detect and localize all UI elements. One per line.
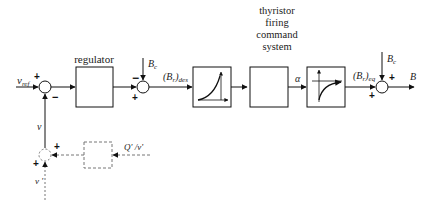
svc-control-block-diagram: vref + − v regulator Bc − + (Br)des — [0, 0, 431, 207]
sum3-plus-top: + — [389, 72, 395, 83]
feedback-path: v — [37, 94, 45, 148]
b-eq-label: (Br)eq — [353, 70, 376, 83]
bc1-label: Bc — [148, 58, 158, 71]
output-b-label: B — [410, 71, 416, 82]
q-over-v-label: Q' /v' — [124, 142, 144, 152]
thyristor-firing-block: thyristor firing command system — [250, 5, 298, 107]
b-des-signal: (Br)des — [149, 71, 192, 87]
regulator-label: regulator — [74, 53, 114, 65]
sum4-plus-right: + — [54, 141, 60, 152]
sum4-plus-left: + — [33, 158, 39, 169]
b-des-label: (Br)des — [163, 71, 188, 84]
v-prime-label: v ' — [35, 176, 44, 186]
vref-label: vref — [17, 74, 30, 88]
b-eq-signal: (Br)eq — [345, 70, 376, 87]
auxiliary-dashed-path: + + v ' Q' /v' — [33, 141, 150, 200]
sum1-plus-sign: + — [34, 71, 40, 82]
linearizer-block — [193, 67, 231, 107]
sum1-minus-sign: − — [52, 91, 58, 103]
thyristor-label-line4: system — [262, 41, 291, 52]
thyristor-label-line2: firing — [265, 17, 289, 28]
alpha-label: α — [295, 73, 301, 84]
sum2-plus-sign: + — [132, 92, 138, 103]
sum2-minus-sign: − — [132, 71, 139, 85]
thyristor-characteristic-block — [307, 67, 345, 107]
bc2-label: Bc — [387, 53, 397, 66]
summing-junction-2: Bc − + — [132, 58, 158, 103]
sum3-plus-bottom: + — [369, 90, 375, 101]
thyristor-label-line3: command — [256, 29, 298, 40]
regulator-block: regulator — [74, 53, 114, 107]
auxiliary-block — [84, 142, 112, 168]
thyristor-label-line1: thyristor — [259, 5, 295, 16]
alpha-signal: α — [288, 73, 306, 87]
feedback-v-label: v — [37, 121, 42, 132]
summing-junction-4 — [39, 149, 51, 161]
